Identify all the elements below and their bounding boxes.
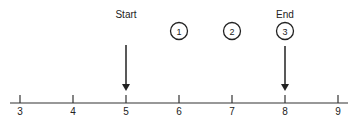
- ticks: [20, 95, 338, 103]
- tick-label: 9: [335, 106, 341, 117]
- end-arrow-icon: [281, 46, 289, 91]
- tick-label: 8: [282, 106, 288, 117]
- tick-label: 4: [70, 106, 76, 117]
- tick-label: 3: [17, 106, 23, 117]
- number-line-diagram: 3 4 5 6 7 8 9 Start End 1 2 3: [0, 0, 357, 122]
- tick-label: 5: [123, 106, 129, 117]
- tick-label: 7: [229, 106, 235, 117]
- step-circle-1: 1: [171, 23, 188, 40]
- end-label: End: [276, 9, 294, 20]
- step-label: 1: [176, 27, 181, 37]
- tick-labels: 3 4 5 6 7 8 9: [17, 106, 341, 117]
- start-label: Start: [115, 9, 136, 20]
- tick-label: 6: [176, 106, 182, 117]
- step-label: 2: [229, 27, 234, 37]
- step-circle-2: 2: [224, 23, 241, 40]
- step-circle-3: 3: [277, 23, 294, 40]
- step-label: 3: [282, 27, 287, 37]
- start-arrow-icon: [122, 45, 130, 91]
